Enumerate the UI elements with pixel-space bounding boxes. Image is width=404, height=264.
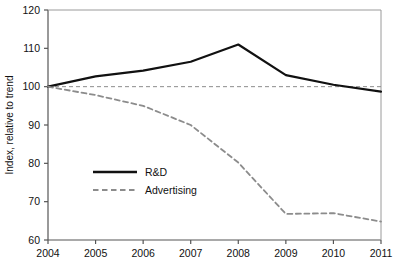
x-tick-label: 2007 (179, 247, 203, 259)
y-axis-ticks: 60708090100110120 (22, 4, 48, 246)
x-tick-label: 2005 (84, 247, 108, 259)
y-tick-label: 70 (28, 195, 40, 207)
x-tick-label: 2006 (131, 247, 155, 259)
chart-container: 60708090100110120 2004200520062007200820… (0, 0, 404, 264)
plot-area-background (48, 10, 381, 240)
y-tick-label: 90 (28, 119, 40, 131)
x-tick-label: 2010 (322, 247, 346, 259)
y-axis-title: Index, relative to trend (4, 76, 15, 175)
x-tick-label: 2004 (36, 247, 60, 259)
x-axis-ticks: 20042005200620072008200920102011 (36, 240, 392, 259)
legend-label-advertising: Advertising (145, 184, 197, 196)
y-tick-label: 80 (28, 157, 40, 169)
x-tick-label: 2011 (370, 247, 393, 259)
y-tick-label: 60 (28, 234, 40, 246)
y-tick-label: 100 (22, 80, 40, 92)
y-tick-label: 110 (23, 42, 40, 54)
x-tick-label: 2008 (227, 247, 251, 259)
line-chart: 60708090100110120 2004200520062007200820… (0, 0, 404, 264)
legend-label-rd: R&D (145, 166, 168, 178)
y-tick-label: 120 (22, 4, 40, 16)
x-tick-label: 2009 (274, 247, 298, 259)
